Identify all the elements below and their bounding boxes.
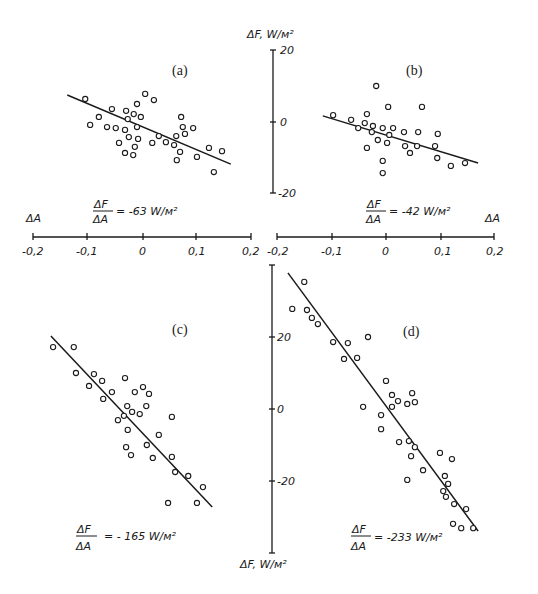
data-point bbox=[331, 113, 336, 118]
right-x-tick-neg0.2: -0,2 bbox=[267, 245, 288, 258]
right-x-tick-0.1: 0,1 bbox=[434, 245, 452, 258]
scatter-panel-a bbox=[67, 91, 231, 174]
data-point bbox=[179, 114, 184, 119]
annotation-c-value: = - 165 W/м² bbox=[104, 530, 177, 543]
data-point bbox=[144, 404, 149, 409]
data-point bbox=[464, 506, 469, 511]
annotation-b-value: = -42 W/м² bbox=[389, 205, 451, 218]
data-point bbox=[88, 122, 93, 127]
data-point bbox=[128, 452, 133, 457]
data-point bbox=[370, 123, 375, 128]
data-point bbox=[71, 344, 76, 349]
data-point bbox=[341, 356, 346, 361]
annotation-b-denominator: ΔA bbox=[365, 213, 381, 226]
data-point bbox=[380, 171, 385, 176]
data-point bbox=[410, 391, 415, 396]
data-point bbox=[362, 120, 367, 125]
data-point bbox=[462, 160, 467, 165]
annotation-c-numerator: ΔF bbox=[76, 523, 92, 536]
data-point bbox=[383, 378, 388, 383]
data-point bbox=[146, 391, 151, 396]
data-point bbox=[109, 389, 114, 394]
annotation-d-denominator: ΔA bbox=[350, 540, 366, 553]
data-point bbox=[135, 136, 140, 141]
panel-b-label: (b) bbox=[406, 63, 423, 79]
data-point bbox=[174, 133, 179, 138]
data-point bbox=[384, 140, 389, 145]
data-point bbox=[449, 456, 454, 461]
data-point bbox=[122, 127, 127, 132]
top-y-axis-label: ΔF, W/м² bbox=[246, 28, 294, 41]
left-x-tick-0.2: 0,2 bbox=[242, 245, 260, 258]
data-point bbox=[91, 371, 96, 376]
data-point bbox=[138, 114, 143, 119]
left-x-axis: ΔA -0,2 -0,1 0 0,1 0,2 bbox=[22, 212, 260, 258]
annotation-a-numerator: ΔF bbox=[93, 198, 109, 211]
data-point bbox=[140, 384, 145, 389]
data-point bbox=[132, 389, 137, 394]
left-x-tick-neg0.2: -0,2 bbox=[22, 245, 43, 258]
data-point bbox=[302, 279, 307, 284]
data-point bbox=[407, 150, 412, 155]
data-point bbox=[364, 111, 369, 116]
data-point bbox=[389, 404, 394, 409]
data-point bbox=[387, 132, 392, 137]
data-point bbox=[378, 427, 383, 432]
top-y-axis: ΔF, W/м² 20 0 -20 bbox=[246, 28, 296, 200]
data-point bbox=[150, 455, 155, 460]
data-point bbox=[131, 153, 136, 158]
data-point bbox=[380, 158, 385, 163]
data-point bbox=[86, 383, 91, 388]
data-point bbox=[378, 413, 383, 418]
data-point bbox=[101, 396, 106, 401]
right-x-tick-0.2: 0,2 bbox=[486, 245, 504, 258]
data-point bbox=[156, 133, 161, 138]
data-point bbox=[121, 413, 126, 418]
data-point bbox=[122, 150, 127, 155]
scatter-panel-b bbox=[323, 83, 478, 175]
data-point bbox=[345, 341, 350, 346]
annotation-d: ΔF ΔA = -233 W/м² bbox=[350, 523, 443, 553]
data-point bbox=[432, 144, 437, 149]
bottom-y-tick-0: 0 bbox=[277, 403, 284, 416]
data-point bbox=[405, 477, 410, 482]
data-point bbox=[374, 83, 379, 88]
data-point bbox=[186, 473, 191, 478]
data-point bbox=[452, 501, 457, 506]
data-point bbox=[144, 442, 149, 447]
data-point bbox=[194, 500, 199, 505]
bottom-y-axis: 20 0 -20 ΔF, W/м² bbox=[239, 265, 295, 571]
data-point bbox=[380, 126, 385, 131]
data-point bbox=[406, 438, 411, 443]
data-point bbox=[125, 404, 130, 409]
data-point bbox=[448, 163, 453, 168]
data-point bbox=[420, 468, 425, 473]
data-point bbox=[132, 144, 137, 149]
regression-line bbox=[67, 95, 231, 164]
right-x-tick-neg0.1: -0,1 bbox=[321, 245, 342, 258]
data-point bbox=[304, 307, 309, 312]
data-point bbox=[395, 398, 400, 403]
bottom-y-axis-label: ΔF, W/м² bbox=[239, 558, 287, 571]
data-point bbox=[177, 149, 182, 154]
data-point bbox=[219, 149, 224, 154]
regression-line bbox=[323, 116, 478, 163]
data-point bbox=[124, 445, 129, 450]
data-point bbox=[459, 526, 464, 531]
top-y-tick-0: 0 bbox=[280, 116, 287, 129]
data-point bbox=[182, 131, 187, 136]
annotation-c: ΔF ΔA = - 165 W/м² bbox=[75, 523, 177, 553]
data-point bbox=[441, 488, 446, 493]
data-point bbox=[104, 124, 109, 129]
data-point bbox=[211, 169, 216, 174]
data-point bbox=[143, 91, 148, 96]
data-point bbox=[115, 418, 120, 423]
data-point bbox=[396, 440, 401, 445]
data-point bbox=[180, 124, 185, 129]
data-point bbox=[125, 427, 130, 432]
figure: ΔF, W/м² 20 0 -20 ΔA -0,2 -0,1 0 0,1 0,2… bbox=[0, 0, 538, 594]
data-point bbox=[109, 106, 114, 111]
data-point bbox=[113, 126, 118, 131]
data-point bbox=[355, 355, 360, 360]
data-point bbox=[443, 494, 448, 499]
